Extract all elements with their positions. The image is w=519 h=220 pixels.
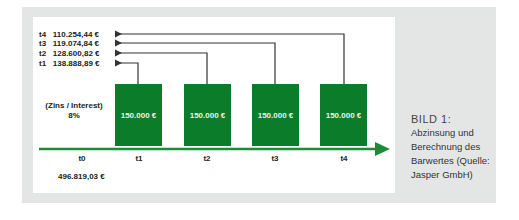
figure-caption: BILD 1: Abzinsung und Berechnung des Bar…	[411, 112, 496, 182]
pv-row-t1: t1 138.888,89 €	[39, 59, 100, 68]
caption-text: Abzinsung und Berechnung des Barwertes (…	[411, 126, 496, 182]
payment-box-t1: 150.000 €	[115, 84, 162, 146]
pv-row-t3: t3 119.074,84 €	[39, 39, 99, 48]
tick-t0: t0	[67, 154, 97, 163]
payment-box-t3: 150.000 €	[252, 84, 299, 146]
tick-t3: t3	[260, 154, 290, 163]
payment-box-t2: 150.000 €	[184, 84, 231, 146]
timeline-arrowhead-icon	[375, 142, 390, 156]
pv-row-t4: t4 110.254,44 €	[39, 30, 99, 39]
tick-t1: t1	[124, 154, 154, 163]
tick-t2: t2	[192, 154, 222, 163]
interest-info: (Zins / Interest) 8%	[42, 101, 106, 121]
interest-rate: 8%	[42, 111, 106, 121]
tick-t4: t4	[329, 154, 359, 163]
interest-label: (Zins / Interest)	[42, 101, 106, 111]
pv-row-t2: t2 128.600,82 €	[39, 49, 100, 58]
caption-title: BILD 1:	[411, 112, 496, 126]
total-present-value: 496.819,03 €	[58, 172, 105, 181]
payment-box-t4: 150.000 €	[320, 84, 367, 146]
